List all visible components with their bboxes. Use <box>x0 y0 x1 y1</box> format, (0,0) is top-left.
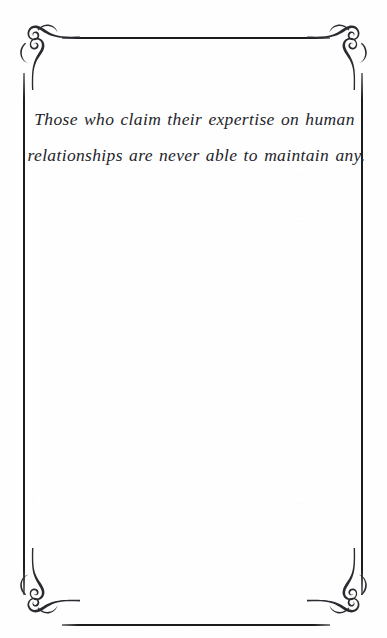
border-rule-bottom <box>62 624 330 626</box>
corner-flourish-icon-top-right <box>305 10 383 92</box>
border-rule-top <box>62 37 330 39</box>
quotation-line-1: Those who claim their expertise on human <box>0 101 387 137</box>
corner-flourish-icon-bottom-right <box>305 546 383 628</box>
quotation-text-block: Those who claim their expertise on human… <box>0 101 387 173</box>
quotation-page: Those who claim their expertise on human… <box>0 0 387 638</box>
paper-texture-overlay <box>0 0 387 638</box>
corner-flourish-icon-top-left <box>4 10 82 92</box>
corner-flourish-icon-bottom-left <box>4 546 82 628</box>
quotation-line-2: relationships are never able to maintain… <box>0 137 387 173</box>
